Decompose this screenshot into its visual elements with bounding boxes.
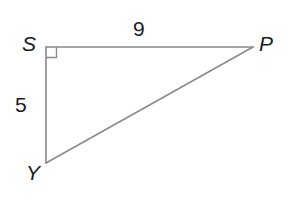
vertex-label-s: S	[22, 33, 36, 54]
vertex-label-y: Y	[26, 162, 40, 183]
geometry-diagram: S P Y 9 5	[0, 0, 287, 204]
side-length-label-sy: 5	[15, 94, 27, 115]
side-yp-line	[46, 47, 253, 163]
vertex-label-p: P	[259, 33, 273, 54]
right-angle-square-icon	[46, 47, 57, 58]
side-length-label-sp: 9	[133, 18, 145, 39]
